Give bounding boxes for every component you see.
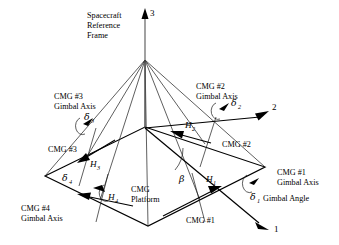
cmg1-delta-arc <box>242 175 252 193</box>
cmg4-node-label: CMG #4 <box>21 204 50 213</box>
cmg2-axis-label-line1: CMG #2 <box>196 82 225 91</box>
cmg1-h-subscript: 1 <box>213 179 216 186</box>
frame-label-line1: Spacecraft <box>87 11 122 20</box>
cmg1-h-vector-line <box>163 190 214 216</box>
cmg3-axis-label-line1: CMG #3 <box>54 92 83 101</box>
cmg2-delta-subscript: 2 <box>238 103 241 110</box>
cmg4-delta-arrowhead <box>93 185 105 192</box>
axis-2-arrowhead <box>255 111 269 121</box>
cmg2-axis-label-line2: Gimbal Axis <box>196 92 238 101</box>
cmg2-node-label: CMG #2 <box>222 140 251 149</box>
diagram-canvas: 3 2 1 Spacecraft Reference Frame δ 1 Gim… <box>0 0 339 245</box>
cmg1-delta-symbol: δ <box>250 191 256 202</box>
cmg2-delta-arc <box>211 103 220 119</box>
cmg2-delta-arrowhead <box>219 103 229 111</box>
frame-label-line3: Frame <box>87 31 108 40</box>
cmg4-gimbal-axis-line <box>96 174 108 222</box>
cmg3-h-subscript: 3 <box>96 164 100 171</box>
beta-angle-group: β <box>175 148 185 184</box>
cmg1-delta-subscript: 1 <box>257 197 260 204</box>
cmg1-axis-label-line1: CMG #1 <box>277 168 306 177</box>
cmg-pyramid-diagram: 3 2 1 Spacecraft Reference Frame δ 1 Gim… <box>0 0 339 245</box>
cmg4-h-arrowhead <box>77 193 91 201</box>
cmg1-group: δ 1 Gimbal Angle H 1 CMG #1 CMG #1 Gimba… <box>163 168 319 225</box>
cmg3-delta-symbol: δ <box>84 111 90 122</box>
cmg3-axis-label-line2: Gimbal Axis <box>54 102 96 111</box>
cmg4-h-subscript: 4 <box>115 197 118 204</box>
cmg1-delta-arrowhead <box>249 178 259 185</box>
axis-1-label: 1 <box>274 224 279 234</box>
cmg-platform-label: CMG Platform <box>131 185 160 204</box>
axis-2-label: 2 <box>272 102 277 112</box>
beta-symbol: β <box>178 173 185 184</box>
platform-label-line2: Platform <box>131 195 160 204</box>
axis-1-arrowhead <box>255 222 269 230</box>
cmg1-axis-label-line2: Gimbal Axis <box>277 178 319 187</box>
axis-3-arrowhead <box>142 8 149 19</box>
cmg4-delta-subscript: 4 <box>69 178 72 185</box>
spacecraft-reference-frame-label: Spacecraft Reference Frame <box>87 11 122 40</box>
cmg1-gimbal-angle-text: Gimbal Angle <box>263 194 310 203</box>
platform-label-line1: CMG <box>131 185 150 194</box>
cmg2-h-subscript: 2 <box>192 125 195 132</box>
cmg2-h-vector-line <box>178 134 211 143</box>
axis-2-line <box>145 117 260 128</box>
axis-3-label: 3 <box>150 8 155 18</box>
cmg4-group: δ 4 H 4 CMG #4 CMG #4 Gimbal Axis <box>21 172 133 223</box>
cmg1-node-label: CMG #1 <box>186 216 215 225</box>
cmg3-node-label: CMG #3 <box>48 145 77 154</box>
cmg4-delta-symbol: δ <box>62 172 68 183</box>
cmg4-axis-label-line2: Gimbal Axis <box>21 214 63 223</box>
axis-2-group: 2 <box>145 102 277 128</box>
cmg3-delta-subscript: 3 <box>90 117 94 124</box>
frame-label-line2: Reference <box>87 21 121 30</box>
